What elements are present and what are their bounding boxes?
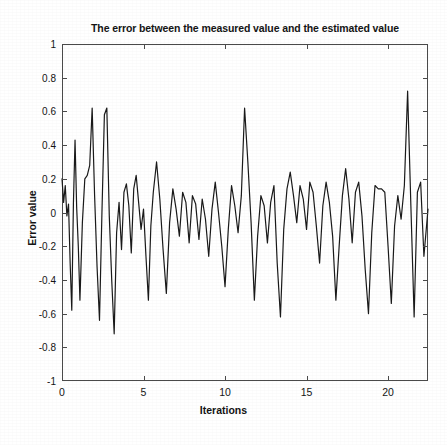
x-tick-mark (225, 376, 226, 381)
x-axis-ticks: 05101520 (0, 0, 447, 445)
x-axis-title: Iterations (0, 404, 447, 416)
x-tick-mark-top (307, 44, 308, 49)
x-tick-label: 10 (219, 386, 231, 398)
x-tick-mark (144, 376, 145, 381)
x-tick-label: 0 (59, 386, 65, 398)
chart-figure: The error between the measured value and… (0, 0, 447, 445)
y-axis-title: Error value (26, 158, 38, 278)
x-tick-mark (307, 376, 308, 381)
x-tick-mark-top (388, 44, 389, 49)
x-tick-label: 5 (141, 386, 147, 398)
x-tick-mark-top (144, 44, 145, 49)
x-tick-mark (388, 376, 389, 381)
x-tick-label: 15 (301, 386, 313, 398)
x-tick-mark-top (225, 44, 226, 49)
x-tick-label: 20 (382, 386, 394, 398)
